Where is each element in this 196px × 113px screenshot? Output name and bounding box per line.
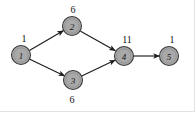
node-5[interactable]: 5 bbox=[160, 47, 179, 66]
node-2-label: 2 bbox=[70, 22, 75, 32]
node-5-value-label: 1 bbox=[170, 34, 175, 45]
edge-2-4 bbox=[81, 31, 116, 50]
node-2-value-label: 6 bbox=[71, 4, 76, 15]
diagram-canvas: 1 2 3 4 5 1 bbox=[0, 0, 196, 113]
node-4-value-label: 11 bbox=[122, 34, 132, 45]
node-3[interactable]: 3 bbox=[64, 71, 83, 90]
graph-figure: 1 2 3 4 5 1 bbox=[0, 0, 196, 113]
node-1-value-label: 1 bbox=[22, 33, 27, 44]
node-1-label: 1 bbox=[19, 51, 24, 61]
edge-3-4 bbox=[82, 60, 116, 76]
edge-1-3 bbox=[29, 59, 64, 76]
nodes-layer: 1 2 3 4 5 bbox=[12, 17, 179, 90]
node-4-label: 4 bbox=[122, 52, 127, 62]
edges-layer bbox=[29, 31, 159, 76]
node-2[interactable]: 2 bbox=[63, 17, 82, 36]
node-5-label: 5 bbox=[167, 52, 172, 62]
node-4[interactable]: 4 bbox=[115, 47, 134, 66]
node-3-value-label: 6 bbox=[70, 94, 75, 105]
node-values-layer: 1 6 11 1 6 bbox=[22, 4, 175, 105]
edge-1-2 bbox=[29, 31, 63, 51]
node-1[interactable]: 1 bbox=[12, 46, 31, 65]
node-3-label: 3 bbox=[70, 76, 76, 86]
